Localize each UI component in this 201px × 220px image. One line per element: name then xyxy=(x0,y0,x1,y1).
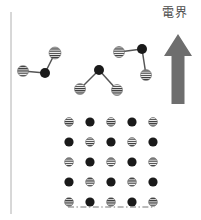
arrow-shape xyxy=(164,34,192,104)
dark-atom xyxy=(137,44,147,54)
hatched-atom xyxy=(65,158,74,167)
dark-atom xyxy=(40,68,50,78)
hatched-atom xyxy=(149,118,158,127)
figure-svg xyxy=(0,0,201,220)
hatched-atom xyxy=(141,70,152,81)
dark-atom xyxy=(64,137,73,146)
electric-field-label: 電界 xyxy=(162,7,188,19)
hatched-atom xyxy=(107,118,116,127)
hatched-atom xyxy=(114,47,125,58)
figure-canvas: 電界 xyxy=(0,0,201,220)
dark-atom xyxy=(94,65,104,75)
hatched-atom xyxy=(149,198,158,207)
dark-atom xyxy=(148,177,157,186)
hatched-atom xyxy=(86,178,95,187)
hatched-atom xyxy=(112,85,123,96)
molecule-1 xyxy=(18,47,62,78)
dark-atom xyxy=(85,117,94,126)
hatched-atom xyxy=(107,158,116,167)
hatched-atom xyxy=(107,198,116,207)
dark-atom xyxy=(106,137,115,146)
electric-field-arrow xyxy=(164,34,192,104)
hatched-atom xyxy=(128,138,137,147)
hatched-atom xyxy=(128,178,137,187)
hatched-atom xyxy=(65,198,74,207)
hatched-atom xyxy=(65,118,74,127)
molecule-2 xyxy=(75,65,123,96)
dark-atom xyxy=(127,117,136,126)
hatched-atom xyxy=(149,158,158,167)
molecule-3 xyxy=(114,44,152,81)
crystal-lattice-group xyxy=(64,117,157,206)
dark-atom xyxy=(148,137,157,146)
hatched-atom xyxy=(18,66,29,77)
dark-atom xyxy=(64,177,73,186)
hatched-atom xyxy=(86,138,95,147)
dark-atom xyxy=(106,177,115,186)
dipole-molecules-group xyxy=(18,44,152,96)
dark-atom xyxy=(85,197,94,206)
dark-atom xyxy=(85,157,94,166)
hatched-atom xyxy=(75,84,86,95)
hatched-atom xyxy=(49,47,61,59)
dark-atom xyxy=(127,197,136,206)
dark-atom xyxy=(127,157,136,166)
